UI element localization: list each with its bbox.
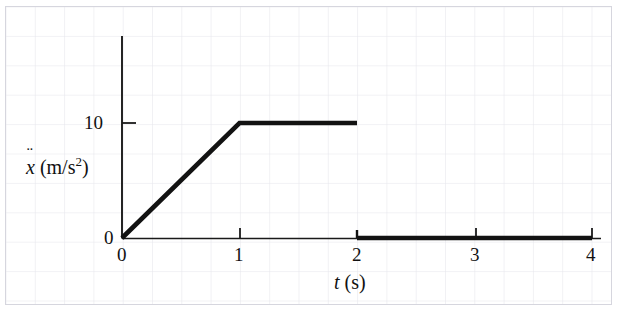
- x-tick-label-3: 3: [470, 245, 480, 264]
- curve-ramp-plateau: [122, 123, 357, 238]
- y-tick-label-0: 0: [104, 228, 114, 247]
- x-tick-label-0: 0: [117, 245, 127, 264]
- y-axis-label-unit: (m/s2): [35, 156, 89, 178]
- x-tick-label-1: 1: [234, 245, 244, 264]
- double-dot-accent: ¨: [27, 145, 34, 163]
- y-axis-label-variable: ¨x: [26, 157, 35, 177]
- x-tick-label-2: 2: [352, 245, 362, 264]
- y-axis-label: ¨x (m/s2): [26, 155, 89, 177]
- x-axis-label-variable: t: [334, 271, 340, 293]
- x-tick-label-4: 4: [586, 245, 596, 264]
- y-tick-label-10: 10: [84, 113, 103, 132]
- x-axis-label-unit: (s): [345, 271, 366, 293]
- figure-container: ¨x (m/s2) t (s) 0 10 0 1 2 3 4: [0, 0, 618, 321]
- plot-area: [0, 0, 618, 321]
- x-axis-label: t (s): [334, 272, 366, 292]
